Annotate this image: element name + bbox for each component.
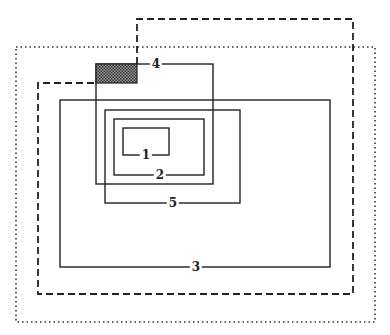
box-3-label: 3 [190, 261, 202, 273]
dashed-boundary-path [38, 19, 353, 294]
box-1-label: 1 [140, 149, 152, 161]
box-5-label: 5 [167, 197, 179, 209]
shaded-block [96, 64, 137, 83]
box-5 [105, 110, 240, 203]
nested-boxes-diagram [0, 0, 390, 335]
box-2-label: 2 [154, 169, 166, 181]
box-4-label: 4 [150, 58, 162, 70]
